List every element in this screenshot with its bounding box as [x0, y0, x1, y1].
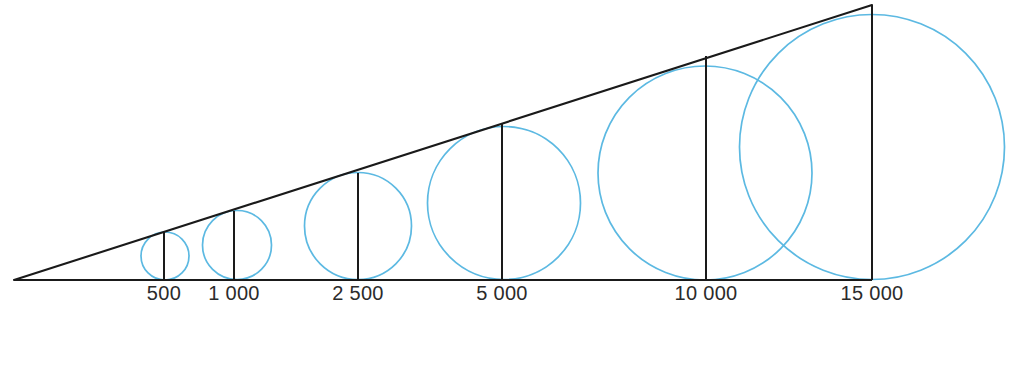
axis-tick-label-2500: 2 500: [332, 282, 384, 304]
axis-tick-label-500: 500: [147, 282, 181, 304]
diagram-canvas: 5001 0002 5005 00010 00015 000: [0, 0, 1010, 365]
diagram-background: [0, 0, 1010, 365]
axis-tick-label-1000: 1 000: [208, 282, 260, 304]
axis-tick-label-10000: 10 000: [675, 282, 738, 304]
axis-tick-label-5000: 5 000: [476, 282, 528, 304]
axis-tick-label-15000: 15 000: [841, 282, 904, 304]
